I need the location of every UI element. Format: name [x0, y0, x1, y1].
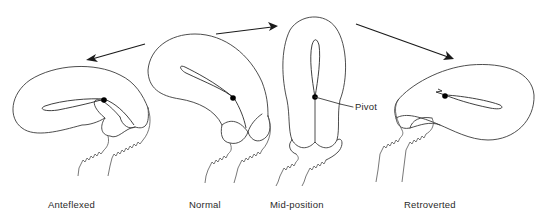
uterus-mid-position: [276, 17, 353, 186]
arrow-to-retroverted: [356, 24, 454, 60]
uterus-normal: [148, 34, 270, 183]
label-normal: Normal: [189, 199, 221, 210]
uterus-retroverted: [376, 64, 534, 182]
label-anteflexed: Anteflexed: [48, 199, 95, 210]
label-mid-position: Mid-position: [270, 199, 324, 210]
arrow-to-anteflexed: [86, 44, 145, 62]
uterus-anteflexed: [13, 66, 150, 176]
arrow-to-mid-position: [216, 22, 278, 34]
uterine-position-diagram: Pivot Anteflexed Normal Mid-position Ret…: [0, 0, 542, 217]
pivot-label: Pivot: [355, 101, 377, 112]
label-retroverted: Retroverted: [404, 199, 456, 210]
diagram-svg: [0, 0, 542, 217]
